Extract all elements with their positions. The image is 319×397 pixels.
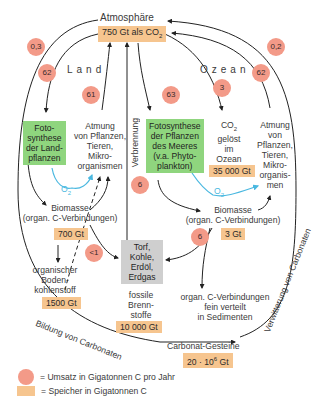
- ocean-photosynthesis-box: Fotosynthese der Pflanzen des Meeres (v.…: [146, 119, 204, 173]
- flux-badge-ocean-photosynthesis: 63: [162, 86, 180, 104]
- land-biomass-storage: 700 Gt: [54, 228, 88, 240]
- ocean-co2-storage: 35 000 Gt: [209, 165, 255, 177]
- legend-flux-circle-icon: [18, 369, 34, 385]
- ocean-co2-label: CO2 gelöst im Ozean: [212, 120, 246, 164]
- legend-storage: = Speicher in Gigatonnen C: [17, 386, 147, 396]
- arrow-atm-ocean-photosynthesis: [138, 43, 150, 110]
- flux-badge-ocean-fossil: 6: [191, 228, 209, 246]
- arrow-land-o2: [52, 168, 92, 188]
- fossil-fuels-box: Torf, Kohle, Erdöl, Erdgas: [121, 240, 163, 284]
- land-photosynthesis-box: Foto- synthese der Land- pflanzen: [23, 121, 66, 165]
- arrows-layer: [0, 0, 319, 397]
- soil-carbon-storage: 1500 Gt: [42, 297, 81, 309]
- ocean-o2-label: O2: [214, 186, 224, 200]
- arrow-land-photosynthesis-biomass: [28, 163, 46, 205]
- section-land: Land: [67, 64, 105, 75]
- atmosphere-label: Atmosphäre: [100, 13, 154, 23]
- ocean-biomass-label: Biomasse (organ. C-Verbindungen): [178, 205, 288, 225]
- carbonate-label: Carbonat-Gesteine: [167, 341, 240, 351]
- carbonate-storage: 20 · 106 Gt: [183, 353, 233, 368]
- flux-badge-ocean-respiration: 62: [252, 64, 270, 82]
- land-respiration-label: Atmung von Pflanzen, Tieren, Mikro- orga…: [70, 121, 130, 171]
- flux-badge-ocean-co2: 3: [213, 79, 231, 97]
- atmosphere-storage: 750 Gt als CO2: [98, 26, 166, 42]
- arrow-land-respiration-atm: [102, 43, 110, 110]
- sediments-label: organ. C-Verbindungen fein verteilt in S…: [170, 292, 280, 322]
- ocean-biomass-storage: 3 Gt: [221, 228, 245, 240]
- fossil-fuels-label: fossile Brenn- stoffe: [119, 290, 163, 320]
- flux-badge-land-fossil: <1: [85, 244, 103, 262]
- flux-badge-atm-carbonate: 0,3: [27, 38, 45, 56]
- soil-carbon-label: organischer Boden- kohlenstoff: [30, 265, 80, 295]
- flux-badge-combustion: 6: [131, 176, 149, 194]
- land-o2-label: O2: [61, 184, 71, 198]
- combustion-label: Verbrennung: [130, 118, 140, 167]
- section-ocean: Ozean: [200, 64, 249, 75]
- flux-badge-land-respiration: 61: [82, 86, 100, 104]
- flux-badge-weathering: 0,2: [267, 38, 285, 56]
- ocean-respiration-label: Atmung von Pflanzen, Tieren, Mikro- orga…: [255, 120, 295, 190]
- fossil-fuels-storage: 10 000 Gt: [116, 321, 162, 333]
- flux-badge-land-photosynthesis: 62: [38, 64, 56, 82]
- legend-storage-rect-icon: [17, 386, 35, 396]
- land-biomass-label: Biomasse (organ. C-Verbindungen): [15, 203, 125, 223]
- legend-flux: = Umsatz in Gigatonnen C pro Jahr: [18, 369, 175, 385]
